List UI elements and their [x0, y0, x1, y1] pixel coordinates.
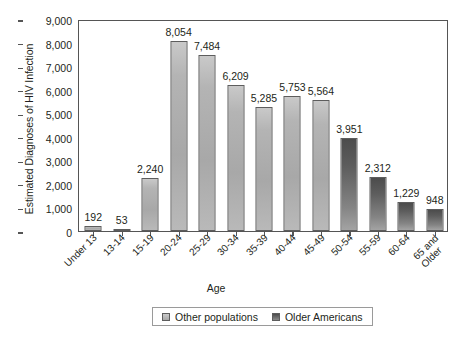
bar[interactable] — [199, 55, 216, 231]
legend-item-label: Older Americans — [285, 311, 363, 323]
y-axis-tick-label: 5,000 — [23, 109, 79, 121]
y-axis-tick-mark — [18, 20, 23, 21]
legend-swatch-icon — [162, 313, 170, 321]
x-axis-tick-label: 40-44 — [272, 232, 298, 258]
x-axis-tick-label-line: 45-49 — [301, 232, 327, 258]
bar-value-label: 948 — [426, 195, 444, 206]
hiv-diagnoses-bar-chart: Estimated Diagnoses of HIV Infection 9,0… — [0, 0, 466, 344]
x-axis-tick-label-line: 25-29 — [187, 232, 213, 258]
x-axis-tick-label: 13-14 — [101, 232, 127, 258]
bar[interactable] — [170, 41, 187, 231]
bar-value-label: 6,209 — [222, 71, 248, 82]
x-axis-tick-label: 45-49 — [301, 232, 327, 258]
bar-value-label: 2,240 — [137, 164, 163, 175]
y-axis-tick-mark — [18, 44, 23, 45]
legend-item-other[interactable]: Other populations — [162, 311, 258, 323]
bar[interactable] — [142, 178, 159, 231]
bar-value-label: 8,054 — [165, 27, 191, 38]
x-axis-tick-label-line: 20-24 — [158, 232, 184, 258]
x-axis-tick-label: 15-19 — [130, 232, 156, 258]
y-axis-tick-mark — [18, 91, 23, 92]
bars-layer: 192532,2408,0547,4846,2095,2855,7535,564… — [79, 21, 447, 231]
x-axis-tick-label: 55-59 — [357, 232, 383, 258]
x-axis-labels: Under 1313-1415-1920-2425-2930-3435-3940… — [78, 234, 448, 282]
x-axis-tick-label: 50-54 — [329, 232, 355, 258]
bar-value-label: 5,753 — [279, 82, 305, 93]
y-axis-tick-mark — [18, 232, 23, 233]
bar-value-label: 1,229 — [393, 188, 419, 199]
bar-value-label: 7,484 — [194, 41, 220, 52]
x-axis-tick-label: 65 andOlder — [411, 232, 448, 269]
x-axis-tick-label-line: 60-64 — [386, 232, 412, 258]
bar-slot: 192 — [79, 21, 107, 231]
bar-slot: 3,951 — [335, 21, 363, 231]
bar-slot: 948 — [421, 21, 449, 231]
bar[interactable] — [398, 202, 415, 231]
x-axis-tick-label: 20-24 — [158, 232, 184, 258]
plot-area: 9,0008,0007,0006,0005,0004,0003,0002,000… — [78, 20, 448, 232]
y-axis-tick-label: 0 — [23, 227, 79, 239]
x-axis-tick-label-line: 30-34 — [215, 232, 241, 258]
x-axis-tick-label: 60-64 — [386, 232, 412, 258]
x-axis-tick-label: 35-39 — [244, 232, 270, 258]
x-axis-tick-label-line: 55-59 — [357, 232, 383, 258]
bar[interactable] — [341, 138, 358, 231]
bar-slot: 2,240 — [136, 21, 164, 231]
y-axis-tick-label: 1,000 — [23, 203, 79, 215]
bar-slot: 5,564 — [307, 21, 335, 231]
bar-value-label: 53 — [116, 215, 128, 226]
y-axis-tick-mark — [18, 68, 23, 69]
bar-value-label: 2,312 — [365, 163, 391, 174]
bar[interactable] — [426, 209, 443, 231]
y-axis-tick-label: 3,000 — [23, 156, 79, 168]
bar-value-label: 3,951 — [336, 124, 362, 135]
y-axis-tick-label: 2,000 — [23, 180, 79, 192]
bar-value-label: 5,564 — [308, 86, 334, 97]
y-axis-tick-label: 8,000 — [23, 39, 79, 51]
legend-swatch-icon — [272, 313, 280, 321]
bar-slot: 5,285 — [250, 21, 278, 231]
bar-slot: 53 — [107, 21, 135, 231]
x-axis-tick-label-line: 35-39 — [244, 232, 270, 258]
y-axis-tick-mark — [18, 138, 23, 139]
x-axis-tick-label-line: 50-54 — [329, 232, 355, 258]
bar[interactable] — [312, 100, 329, 231]
bar[interactable] — [369, 177, 386, 231]
bar-value-label: 192 — [84, 212, 102, 223]
y-axis-tick-label: 9,000 — [23, 15, 79, 27]
bar-slot: 1,229 — [392, 21, 420, 231]
bar-slot: 6,209 — [221, 21, 249, 231]
legend-item-older[interactable]: Older Americans — [272, 311, 363, 323]
bar-slot: 2,312 — [364, 21, 392, 231]
x-axis-title: Age — [0, 282, 432, 294]
y-axis-tick-mark — [18, 115, 23, 116]
bar-slot: 8,054 — [164, 21, 192, 231]
legend-item-label: Other populations — [175, 311, 258, 323]
x-axis-tick-label: 30-34 — [215, 232, 241, 258]
y-axis-tick-mark — [18, 185, 23, 186]
bar[interactable] — [227, 85, 244, 231]
x-axis-tick-label: 25-29 — [187, 232, 213, 258]
chart-legend: Other populationsOlder Americans — [152, 307, 373, 326]
y-axis-tick-mark — [18, 209, 23, 210]
x-axis-tick-label-line: 13-14 — [101, 232, 127, 258]
x-axis-tick-label-line: 15-19 — [130, 232, 156, 258]
bar[interactable] — [284, 96, 301, 232]
bar[interactable] — [255, 107, 272, 231]
y-axis-tick-mark — [18, 162, 23, 163]
y-axis-tick-label: 6,000 — [23, 86, 79, 98]
y-axis-tick-label: 4,000 — [23, 133, 79, 145]
y-axis-tick-label: 7,000 — [23, 62, 79, 74]
x-axis-tick-label-line: 40-44 — [272, 232, 298, 258]
bar-value-label: 5,285 — [251, 93, 277, 104]
bar-slot: 5,753 — [278, 21, 306, 231]
bar-slot: 7,484 — [193, 21, 221, 231]
